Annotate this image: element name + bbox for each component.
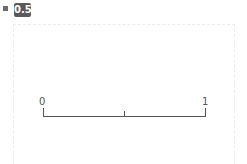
axis-min-label: 0: [39, 97, 45, 107]
value-badge: 0.5: [14, 3, 31, 17]
tick-start: [43, 108, 44, 117]
bullet-square-icon: [3, 6, 8, 11]
tick-mid: [124, 111, 125, 117]
tick-end: [205, 108, 206, 117]
axis-max-label: 1: [202, 97, 208, 107]
dashed-container: [13, 24, 235, 164]
